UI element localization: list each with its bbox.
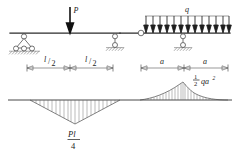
pin-support-roller-left <box>14 46 19 51</box>
distributed-load-arrows <box>144 16 232 33</box>
roller-support-left-beam <box>106 34 124 51</box>
moment-right-peak-coef-denominator: 2 <box>194 80 197 87</box>
moment-diagram-right-outline <box>140 82 228 100</box>
left-dim-label-1: l / 2 <box>44 55 56 68</box>
moment-right-peak-expression: qa <box>201 77 209 86</box>
roller-support-right-beam <box>174 34 192 51</box>
distributed-load-q: q <box>144 5 232 33</box>
roller-support-wheel <box>113 43 118 48</box>
point-load-arrowhead <box>67 23 74 33</box>
left-dim-label-2-denominator: 2 <box>93 59 97 68</box>
pin-support-ground-hatching <box>9 51 39 54</box>
moment-right-peak-label: 1 2 qa 2 <box>193 73 216 88</box>
pin-support <box>9 34 40 55</box>
roller-support-ground-hatching <box>106 48 124 51</box>
roller-support-right-top-pin <box>181 34 186 39</box>
beam-moment-figure: P <box>0 0 238 157</box>
left-dim-label-2-numerator: l <box>85 55 88 64</box>
end-hinge-icon <box>138 30 144 36</box>
pin-support-roller-mid <box>22 46 27 51</box>
moment-left-peak-denominator: 4 <box>71 141 76 151</box>
moment-diagram-right: 1 2 qa 2 <box>140 73 228 101</box>
point-load-p: P <box>67 6 79 33</box>
right-dimension-group: a a <box>141 57 228 72</box>
moment-left-peak-numerator: Pl <box>67 129 76 139</box>
moment-diagram-left-hatching <box>32 100 118 124</box>
roller-support-right-ground-hatching <box>174 48 192 51</box>
roller-support-top-pin <box>113 34 118 39</box>
right-beam-group: q a <box>120 5 231 72</box>
pin-support-roller-right <box>30 46 35 51</box>
moment-right-peak-exponent: 2 <box>213 75 216 81</box>
point-load-label: P <box>73 6 79 15</box>
moment-left-peak-label: Pl 4 <box>67 129 80 151</box>
left-dim-label-1-numerator: l <box>44 55 47 64</box>
moment-diagram-right-hatching <box>142 82 221 100</box>
left-beam-group: P <box>9 6 124 72</box>
left-dimension-group: l / 2 l / 2 <box>27 55 113 72</box>
moment-right-peak-coef-numerator: 1 <box>194 73 197 80</box>
roller-support-right-wheel <box>181 43 186 48</box>
left-dim-label-1-denominator: 2 <box>52 59 56 68</box>
left-dim-label-2: l / 2 <box>85 55 97 68</box>
moment-diagram-left: Pl 4 <box>30 100 120 151</box>
right-dim-label-2: a <box>203 57 207 66</box>
moment-diagram-group: Pl 4 <box>8 73 232 152</box>
right-dim-label-1: a <box>160 57 164 66</box>
distributed-load-label: q <box>185 5 189 14</box>
